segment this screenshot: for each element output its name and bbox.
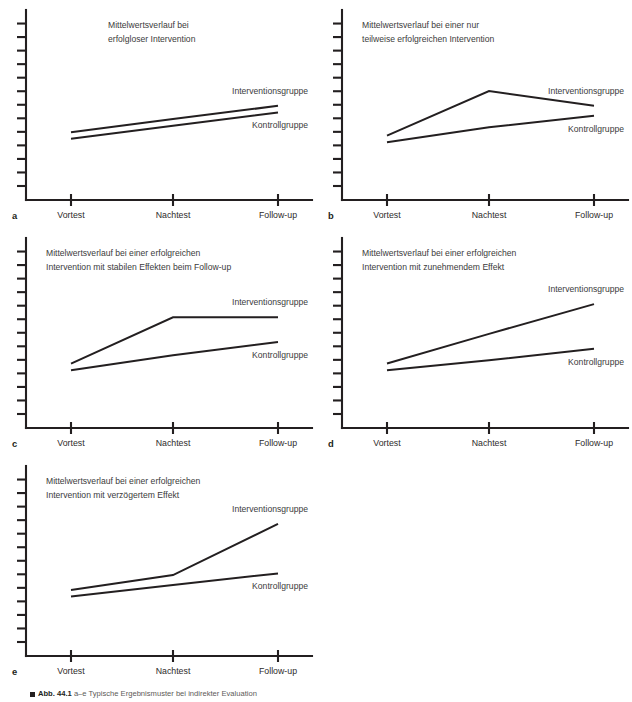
x-tick-label: Vortest	[373, 210, 401, 220]
chart-title: Mittelwertsverlauf bei einer nurteilweis…	[362, 20, 495, 44]
chart-series	[387, 91, 594, 142]
x-tick-label: Vortest	[57, 438, 85, 448]
series-label-intervention: Interventionsgruppe	[548, 284, 624, 294]
panel-letter-text: d	[328, 438, 334, 449]
panel-letter: c	[12, 438, 17, 449]
series-label-control: Kontrollgruppe	[252, 120, 308, 130]
y-axis-ticks	[17, 480, 25, 642]
x-tick-label: Nachtest	[156, 666, 191, 676]
series-labels: InterventionsgruppeKontrollgruppe	[232, 297, 308, 360]
chart-panel-e: VortestNachtestFollow-upMittelwertsverla…	[0, 456, 316, 684]
series-labels: InterventionsgruppeKontrollgruppe	[548, 86, 624, 134]
series-label-control: Kontrollgruppe	[568, 124, 624, 134]
chart-panel-d: VortestNachtestFollow-upMittelwertsverla…	[316, 228, 632, 456]
chart-series	[71, 106, 278, 139]
y-axis-ticks	[333, 252, 341, 414]
caption-marker-icon	[30, 692, 35, 697]
y-axis-ticks	[17, 24, 25, 186]
panel-letter: d	[328, 438, 334, 449]
caption-text: a–e Typische Ergebnismuster bei indirekt…	[74, 689, 257, 698]
x-tick-label: Follow-up	[259, 666, 297, 676]
x-tick-label: Follow-up	[575, 210, 613, 220]
series-line-intervention	[387, 304, 594, 363]
caption-label: Abb. 44.1	[38, 689, 72, 698]
x-axis-ticks: VortestNachtestFollow-up	[57, 194, 297, 220]
x-axis-ticks: VortestNachtestFollow-up	[57, 422, 297, 448]
chart-title: Mittelwertsverlauf beierfolgloser Interv…	[108, 20, 196, 44]
panel-letter: e	[12, 666, 17, 677]
series-label-control: Kontrollgruppe	[252, 350, 308, 360]
x-tick-label: Follow-up	[575, 438, 613, 448]
series-line-intervention	[71, 317, 278, 363]
chart-title-line: Intervention mit verzögertem Effekt	[46, 490, 180, 500]
series-labels: InterventionsgruppeKontrollgruppe	[548, 284, 624, 367]
series-label-intervention: Interventionsgruppe	[232, 504, 308, 514]
chart-title-line: Mittelwertsverlauf bei	[108, 20, 189, 30]
y-axis-ticks	[333, 24, 341, 186]
panel-letter-text: c	[12, 438, 17, 449]
chart-title: Mittelwertsverlauf bei einer erfolgreich…	[46, 248, 231, 272]
panel-letter-text: b	[328, 210, 334, 221]
x-tick-label: Nachtest	[472, 210, 507, 220]
chart-title: Mittelwertsverlauf bei einer erfolgreich…	[46, 476, 201, 500]
series-line-control	[387, 349, 594, 370]
x-tick-label: Vortest	[57, 666, 85, 676]
series-line-control	[387, 116, 594, 142]
chart-title-line: Intervention mit stabilen Effekten beim …	[46, 262, 231, 272]
x-tick-label: Follow-up	[259, 210, 297, 220]
x-tick-label: Nachtest	[156, 210, 191, 220]
chart-title-line: erfolgloser Intervention	[108, 34, 196, 44]
chart-panel-c: VortestNachtestFollow-upMittelwertsverla…	[0, 228, 316, 456]
x-axis-ticks: VortestNachtestFollow-up	[57, 650, 297, 676]
chart-title-line: Mittelwertsverlauf bei einer erfolgreich…	[46, 476, 201, 486]
chart-series	[71, 524, 278, 597]
chart-panel-a: VortestNachtestFollow-upMittelwertsverla…	[0, 0, 316, 228]
chart-title-line: Mittelwertsverlauf bei einer erfolgreich…	[362, 248, 517, 258]
series-label-control: Kontrollgruppe	[568, 357, 624, 367]
chart-series	[71, 317, 278, 370]
chart-title: Mittelwertsverlauf bei einer erfolgreich…	[362, 248, 517, 272]
x-tick-label: Vortest	[373, 438, 401, 448]
x-axis-ticks: VortestNachtestFollow-up	[373, 194, 613, 220]
x-tick-label: Vortest	[57, 210, 85, 220]
x-tick-label: Follow-up	[259, 438, 297, 448]
series-label-intervention: Interventionsgruppe	[232, 86, 308, 96]
y-axis-ticks	[17, 252, 25, 414]
series-label-intervention: Interventionsgruppe	[232, 297, 308, 307]
series-line-intervention	[71, 106, 278, 132]
figure-caption: Abb. 44.1 a–e Typische Ergebnismuster be…	[30, 689, 590, 699]
chart-title-line: teilweise erfolgreichen Intervention	[362, 34, 495, 44]
x-axis-ticks: VortestNachtestFollow-up	[373, 422, 613, 448]
series-line-intervention	[387, 91, 594, 136]
panel-letter: b	[328, 210, 334, 221]
series-line-control	[71, 112, 278, 138]
series-label-intervention: Interventionsgruppe	[548, 86, 624, 96]
series-line-intervention	[71, 524, 278, 590]
chart-panel-b: VortestNachtestFollow-upMittelwertsverla…	[316, 0, 632, 228]
chart-title-line: Mittelwertsverlauf bei einer erfolgreich…	[46, 248, 201, 258]
panel-letter-text: e	[12, 666, 17, 677]
x-tick-label: Nachtest	[156, 438, 191, 448]
series-line-control	[71, 342, 278, 370]
series-label-control: Kontrollgruppe	[252, 581, 308, 591]
x-tick-label: Nachtest	[472, 438, 507, 448]
chart-title-line: Mittelwertsverlauf bei einer nur	[362, 20, 479, 30]
chart-series	[387, 304, 594, 370]
series-labels: InterventionsgruppeKontrollgruppe	[232, 504, 308, 592]
chart-title-line: Intervention mit zunehmendem Effekt	[362, 262, 505, 272]
figure-sheet: VortestNachtestFollow-upMittelwertsverla…	[0, 0, 632, 702]
series-labels: InterventionsgruppeKontrollgruppe	[232, 86, 308, 131]
panel-letter-text: a	[12, 210, 18, 221]
panel-letter: a	[12, 210, 18, 221]
